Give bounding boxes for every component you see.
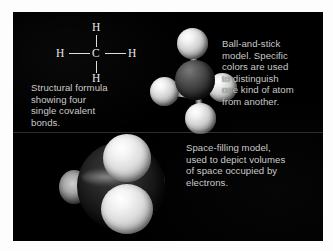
carbon-atom-sphere [175,60,215,100]
caption-structural-formula: Structural formula showing four single c… [31,82,151,128]
space-filling-hydrogen-top [103,134,151,182]
caption-ball-and-stick: Ball-and-stick model. Specific colors ar… [222,38,323,108]
atom-label-hydrogen-right: H [128,48,136,60]
structural-formula-diagram: H H C H H [47,20,151,78]
covalent-bond-line-left [69,53,90,54]
black-plate: H H C H H [13,12,323,241]
hydrogen-atom-sphere-top [177,28,208,59]
space-filling-model [55,128,175,241]
atom-label-hydrogen-top: H [92,22,100,34]
space-filling-hydrogen-bottom [101,184,153,234]
methane-models-figure: H H C H H [0,0,333,251]
covalent-bond-line-right [105,53,126,54]
caption-space-filling: Space-filling model, used to depict volu… [186,142,316,188]
covalent-bond-line-top [96,35,97,47]
covalent-bond-line-bottom [96,61,97,73]
panel-divider [13,132,323,133]
atom-label-hydrogen-left: H [56,48,64,60]
atom-label-carbon-center: C [92,48,100,60]
hydrogen-atom-sphere-bottom [185,103,216,134]
